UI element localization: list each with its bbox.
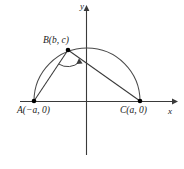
point-C-marker <box>138 99 143 104</box>
geometry-figure: y x A(−a, 0) B(b, c) C(a, 0) <box>0 0 184 169</box>
point-label-B: B(b, c) <box>43 36 69 46</box>
y-axis-arrowhead <box>84 5 90 11</box>
x-axis-label: x <box>168 107 172 116</box>
angle-arc <box>59 62 80 67</box>
point-A-marker <box>32 99 37 104</box>
point-B-marker <box>66 48 71 53</box>
y-axis-label: y <box>80 2 84 11</box>
x-axis-arrowhead <box>172 99 178 105</box>
x-axis <box>20 99 178 105</box>
y-axis <box>84 5 90 155</box>
point-label-A: A(−a, 0) <box>17 106 50 116</box>
segment-BC <box>68 50 140 101</box>
angle-at-B-mark <box>59 58 83 66</box>
geometry-canvas <box>0 0 184 169</box>
segment-AB <box>34 50 68 101</box>
point-label-C: C(a, 0) <box>120 106 147 116</box>
